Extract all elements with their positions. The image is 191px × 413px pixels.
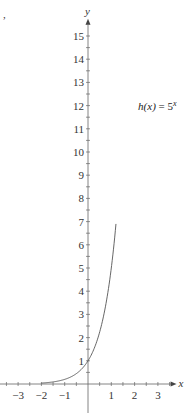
y-tick-label: 5 — [79, 262, 85, 274]
x-axis-label: x — [178, 377, 184, 389]
axes — [0, 19, 177, 413]
x-tick-label: −1 — [59, 389, 71, 401]
y-tick-label: 11 — [73, 123, 84, 135]
x-tick-label: −3 — [12, 389, 24, 401]
x-tick-label: 3 — [155, 389, 161, 401]
y-tick-label: 10 — [73, 146, 85, 158]
y-tick-label: 13 — [73, 76, 85, 88]
function-eq: = 5 — [156, 100, 174, 112]
y-tick-label: 9 — [79, 169, 85, 181]
y-tick-label: 8 — [79, 192, 85, 204]
y-axis-arrow — [86, 19, 91, 25]
y-tick-label: 1 — [79, 355, 85, 367]
y-tick-label: 3 — [79, 308, 85, 320]
x-tick-label: 1 — [109, 389, 115, 401]
tick-labels: xy−3−2−1123123456789101112131415 — [12, 5, 183, 401]
stray-mark: , — [3, 8, 6, 20]
x-tick-label: −2 — [36, 389, 48, 401]
y-axis-label: y — [84, 5, 90, 17]
x-axis-arrow — [171, 382, 177, 387]
y-tick-label: 15 — [73, 30, 85, 42]
function-label: h(x) = 5x — [138, 99, 177, 113]
y-tick-label: 7 — [79, 216, 85, 228]
function-arg: (x) — [144, 100, 157, 113]
function-exponent: x — [172, 99, 177, 108]
y-tick-label: 14 — [73, 53, 85, 65]
y-tick-label: 2 — [79, 332, 85, 344]
x-tick-label: 2 — [132, 389, 138, 401]
y-tick-label: 4 — [79, 285, 85, 297]
y-tick-label: 12 — [73, 100, 84, 112]
y-tick-label: 6 — [79, 239, 85, 251]
chart: xy−3−2−1123123456789101112131415 h(x) = … — [0, 0, 191, 413]
